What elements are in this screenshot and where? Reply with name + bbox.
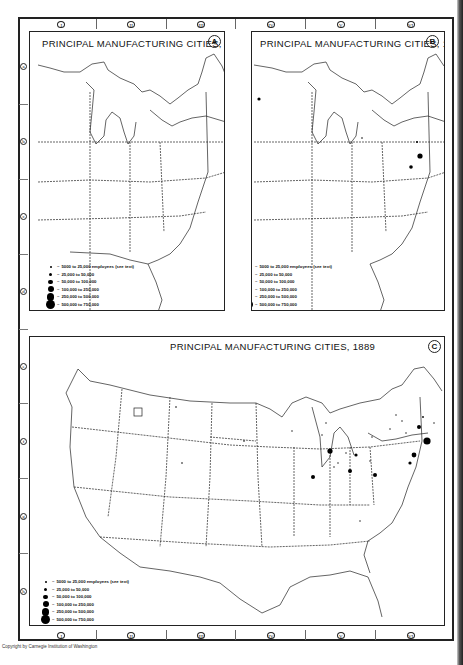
column-label: I xyxy=(57,21,65,28)
map-panel-1889: PRINCIPAL MANUFACTURING CITIES, 1889 C –… xyxy=(29,336,445,626)
column-label: VI xyxy=(407,632,415,639)
row-label: c xyxy=(20,213,27,220)
row-label: e xyxy=(20,363,27,370)
column-label: II xyxy=(127,632,135,639)
page-edge-shadow xyxy=(457,0,463,665)
panel-title: PRINCIPAL MANUFACTURING CITIES, 1839 xyxy=(42,38,225,49)
column-label: VI xyxy=(407,21,415,28)
column-label: V xyxy=(337,632,345,639)
map-panel-1859: PRINCIPAL MANUFACTURING CITIES, 1859 B –… xyxy=(251,31,445,311)
row-label: a xyxy=(20,63,27,70)
row-label: b xyxy=(20,138,27,145)
panel-title: PRINCIPAL MANUFACTURING CITIES, 1889 xyxy=(170,341,375,352)
map-panel-1839: PRINCIPAL MANUFACTURING CITIES, 1839 A –… xyxy=(29,31,225,311)
row-label: d xyxy=(20,288,27,295)
map-legend: –5000 to 25,000 employees (see text) –25… xyxy=(41,578,129,623)
map-legend: –5000 to 25,000 employees (see text) –25… xyxy=(46,263,134,308)
row-index-left: a b c d e f g h xyxy=(19,30,28,628)
column-index-bottom: I II III IV V VI xyxy=(27,630,445,640)
column-label: IV xyxy=(267,632,275,639)
column-label: II xyxy=(127,21,135,28)
column-label: III xyxy=(197,21,205,28)
column-label: I xyxy=(57,632,65,639)
column-label: IV xyxy=(267,21,275,28)
row-label: g xyxy=(20,513,27,520)
panel-label-a: A xyxy=(208,35,221,48)
row-label: h xyxy=(20,588,27,595)
copyright-notice: Copyright by Carnegie Institution of Was… xyxy=(2,644,97,649)
map-legend: –5000 to 25,000 employees (see text) –25… xyxy=(251,263,332,308)
column-label: V xyxy=(337,21,345,28)
column-index-top: I II III IV V VI xyxy=(27,19,445,29)
panel-label-c: C xyxy=(428,340,441,353)
panel-label-b: B xyxy=(426,35,439,48)
panel-title: PRINCIPAL MANUFACTURING CITIES, 1859 xyxy=(260,38,445,49)
row-label: f xyxy=(20,438,27,445)
column-label: III xyxy=(197,632,205,639)
